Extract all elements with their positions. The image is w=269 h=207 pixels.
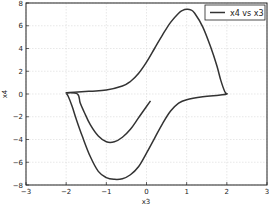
legend: x4 vs x3 <box>205 5 265 20</box>
y-axis-label: x4 <box>1 89 9 98</box>
x-axis-label: x3 <box>142 198 151 206</box>
y-tick-label: −6 <box>13 159 24 167</box>
x-tick-label: 1 <box>184 188 188 196</box>
y-tick-label: −2 <box>13 113 23 121</box>
y-tick-label: 0 <box>19 91 23 99</box>
y-tick-label: −8 <box>13 182 23 190</box>
x-tick-label: 2 <box>225 188 229 196</box>
y-tick-label: −4 <box>13 136 24 144</box>
y-tick-label: 4 <box>19 45 24 53</box>
x-tick-label: −2 <box>61 188 71 196</box>
x-tick-label: 0 <box>144 188 148 196</box>
legend-label: x4 vs x3 <box>230 9 264 18</box>
x-tick-label: −1 <box>101 188 111 196</box>
x-tick-label: 3 <box>265 188 269 196</box>
y-tick-label: 6 <box>19 22 24 30</box>
y-tick-label: 2 <box>19 68 23 76</box>
line-chart: −3−2−10123−8−6−4−202468 x3 x4 x4 vs x3 <box>0 0 269 207</box>
y-tick-label: 8 <box>19 0 23 8</box>
chart-background <box>0 0 269 207</box>
